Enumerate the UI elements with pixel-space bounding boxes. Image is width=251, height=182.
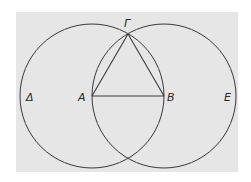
- label-e: E: [224, 91, 231, 104]
- euclid-equilateral-triangle-diagram: Γ A B Δ E: [0, 0, 251, 182]
- label-a: A: [77, 91, 86, 104]
- label-gamma: Γ: [124, 17, 131, 30]
- label-b: B: [167, 91, 175, 104]
- label-delta: Δ: [25, 91, 34, 104]
